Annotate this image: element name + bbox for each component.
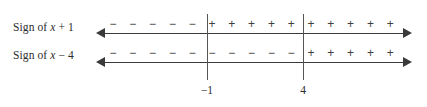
sign-mark-row-0-7: + — [246, 18, 258, 30]
sign-mark-row-1-3: − — [166, 47, 178, 59]
tick-label-0: −1 — [192, 84, 222, 96]
sign-mark-row-1-8: − — [265, 47, 277, 59]
sign-mark-row-0-10: + — [305, 18, 317, 30]
row-1-label-prefix: Sign of — [13, 49, 50, 61]
sign-mark-row-0-2: − — [147, 18, 159, 30]
sign-mark-row-1-13: + — [364, 47, 376, 59]
sign-mark-row-1-7: − — [246, 47, 258, 59]
sign-mark-row-1-6: − — [226, 47, 238, 59]
sign-mark-row-0-13: + — [364, 18, 376, 30]
sign-mark-row-1-14: + — [384, 47, 396, 59]
sign-mark-row-0-3: − — [166, 18, 178, 30]
row-0-label-suffix: + 1 — [55, 21, 73, 33]
sign-mark-row-1-5: − — [206, 47, 218, 59]
sign-mark-row-0-14: + — [384, 18, 396, 30]
sign-mark-row-1-1: − — [127, 47, 139, 59]
sign-chart-figure: Sign of x + 1 Sign of x − 4 −14 −−−−−+++… — [0, 0, 427, 107]
sign-mark-row-0-8: + — [265, 18, 277, 30]
row-label-sign-of-x-minus-4: Sign of x − 4 — [13, 49, 74, 61]
row-0-label-prefix: Sign of — [13, 21, 50, 33]
sign-mark-row-0-1: − — [127, 18, 139, 30]
sign-mark-row-1-9: − — [285, 47, 297, 59]
row-label-sign-of-x-plus-1: Sign of x + 1 — [13, 21, 74, 33]
sign-mark-row-0-4: − — [186, 18, 198, 30]
sign-mark-row-1-11: + — [325, 47, 337, 59]
divider-line-1 — [303, 14, 304, 80]
axis-line-row-1 — [102, 62, 406, 63]
right-arrowhead-icon-row-0 — [403, 28, 412, 38]
sign-mark-row-1-12: + — [345, 47, 357, 59]
sign-mark-row-0-0: − — [107, 18, 119, 30]
right-arrowhead-icon-row-1 — [403, 57, 412, 67]
sign-mark-row-1-0: − — [107, 47, 119, 59]
axis-line-row-0 — [102, 33, 406, 34]
tick-label-1: 4 — [288, 84, 318, 96]
sign-mark-row-1-2: − — [147, 47, 159, 59]
sign-mark-row-0-5: + — [206, 18, 218, 30]
sign-mark-row-0-12: + — [345, 18, 357, 30]
sign-mark-row-0-11: + — [325, 18, 337, 30]
sign-mark-row-0-9: + — [285, 18, 297, 30]
sign-mark-row-1-4: − — [186, 47, 198, 59]
sign-mark-row-1-10: + — [305, 47, 317, 59]
sign-mark-row-0-6: + — [226, 18, 238, 30]
row-1-label-suffix: − 4 — [55, 49, 73, 61]
